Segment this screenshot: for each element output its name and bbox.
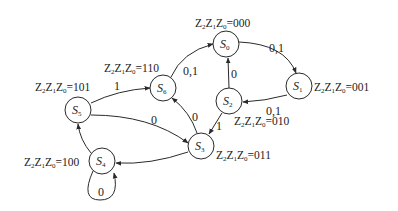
state-s3: S3	[188, 133, 214, 159]
state-diagram: 0,1 0,1 0 1 0 0,1 1 0 0 S0 S1 S2 S3 S4 S…	[0, 0, 398, 211]
edge-s0-s1	[239, 42, 296, 73]
edge-s2-s0	[228, 58, 229, 88]
output-label-s0: Z2Z1Z0=000	[195, 17, 251, 31]
output-label-s4: Z2Z1Z0=100	[24, 156, 80, 170]
edge-label-s4-self: 0	[98, 185, 104, 199]
edge-label-s5-s3: 0	[151, 113, 157, 127]
edge-label-s6-s0: 0,1	[183, 64, 198, 78]
output-label-s5: Z2Z1Z0=101	[35, 81, 91, 95]
state-s4: S4	[89, 148, 115, 174]
state-s0: S0	[213, 31, 239, 57]
edge-label-s3-s6: 0	[192, 110, 198, 124]
state-s5: S5	[65, 97, 91, 123]
edge-label-s5-s6: 1	[114, 79, 120, 93]
edge-label-s0-s1: 0,1	[269, 41, 284, 55]
edge-s4-s5	[78, 124, 91, 153]
edge-label-s2-s3: 1	[216, 119, 222, 133]
output-label-s1: Z2Z1Z0=001	[314, 81, 370, 95]
output-label-s2: Z2Z1Z0=010	[234, 115, 290, 129]
state-s6: S6	[150, 75, 176, 101]
edge-label-s2-s0: 0	[231, 67, 237, 81]
state-s1: S1	[286, 73, 312, 99]
output-label-s3: Z2Z1Z0=011	[216, 149, 271, 163]
state-s2: S2	[216, 88, 242, 114]
edge-s3-s4	[116, 152, 188, 163]
edge-s1-s2	[243, 95, 287, 102]
output-label-s6: Z2Z1Z0=110	[104, 62, 159, 76]
edge-s5-s3	[91, 115, 188, 143]
edge-s5-s6	[91, 88, 150, 103]
